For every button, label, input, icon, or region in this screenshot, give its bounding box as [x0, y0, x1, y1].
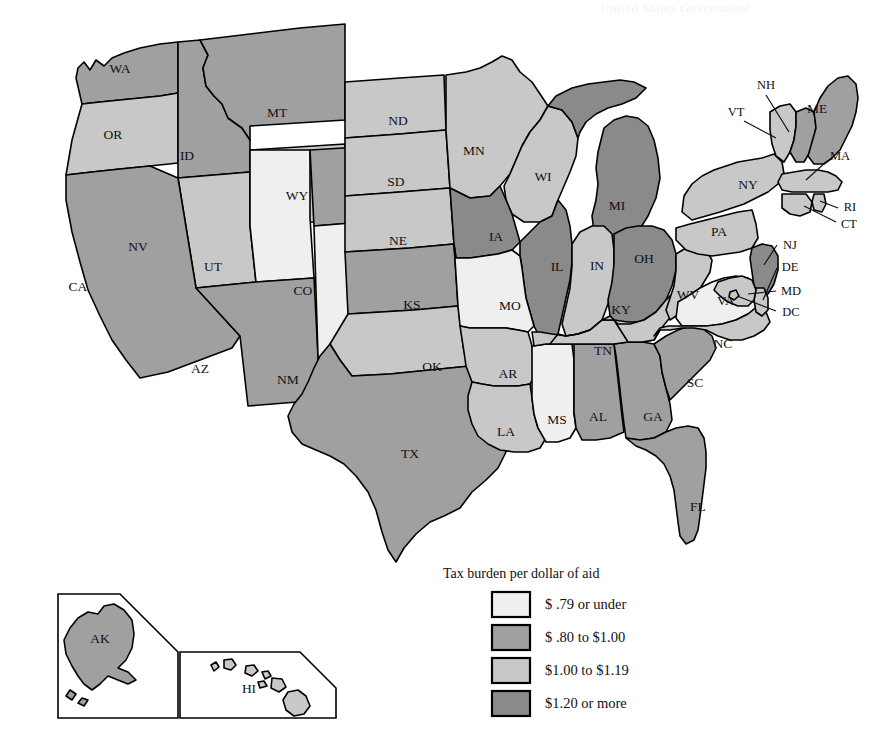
map-figure: United States Government	[0, 0, 883, 729]
legend-title: Tax burden per dollar of aid	[443, 566, 599, 581]
state-label-WA: WA	[110, 61, 131, 76]
state-label-OH: OH	[634, 251, 654, 266]
state-HI[interactable]	[211, 659, 310, 716]
state-label-HI: HI	[242, 681, 257, 696]
state-CT[interactable]	[782, 194, 812, 216]
state-NY[interactable]	[682, 154, 784, 220]
state-label-MA: MA	[830, 149, 850, 163]
state-label-CT: CT	[841, 217, 857, 231]
state-MA[interactable]	[778, 170, 842, 192]
state-label-FL: FL	[690, 499, 706, 514]
state-label-MD: MD	[781, 284, 801, 298]
state-label-NJ: NJ	[783, 238, 797, 252]
state-label-ME: ME	[807, 101, 827, 116]
state-label-SC: SC	[687, 375, 704, 390]
state-label-VA: VA	[717, 293, 735, 308]
legend-label-3: $1.00 to $1.19	[545, 662, 629, 678]
state-label-VT: VT	[728, 105, 745, 119]
state-label-MO: MO	[499, 298, 521, 313]
state-label-NV: NV	[128, 239, 148, 254]
us-choropleth-map: WA OR ID MT WY NV CA UT AZ CO NM ND SD N…	[0, 0, 883, 729]
legend-swatch-3	[492, 658, 530, 683]
state-KS[interactable]	[345, 244, 458, 314]
legend-swatch-4	[492, 691, 530, 716]
state-label-TN: TN	[594, 343, 612, 358]
state-label-MN: MN	[463, 143, 485, 158]
state-label-OK: OK	[422, 359, 442, 374]
state-label-OR: OR	[104, 127, 123, 142]
state-label-NH: NH	[757, 78, 775, 92]
state-label-UT: UT	[204, 259, 223, 274]
state-OK[interactable]	[330, 306, 470, 376]
state-AK[interactable]	[64, 604, 136, 706]
legend-label-4: $1.20 or more	[545, 695, 627, 711]
state-label-WI: WI	[534, 169, 552, 184]
state-label-SD: SD	[387, 174, 405, 189]
state-label-DC: DC	[782, 305, 799, 319]
state-label-GA: GA	[643, 409, 663, 424]
state-label-WV: WV	[677, 287, 700, 302]
state-label-CA: CA	[69, 279, 88, 294]
state-label-AL: AL	[589, 409, 607, 424]
state-label-LA: LA	[497, 424, 515, 439]
state-label-CO: CO	[294, 283, 313, 298]
legend-swatch-2	[492, 625, 530, 650]
state-label-MT: MT	[267, 105, 288, 120]
state-label-PA: PA	[711, 224, 727, 239]
state-label-AK: AK	[90, 631, 110, 646]
state-label-MI: MI	[609, 198, 626, 213]
state-label-NY: NY	[738, 177, 758, 192]
state-FL[interactable]	[626, 426, 706, 544]
state-MS[interactable]	[532, 344, 576, 442]
state-UT[interactable]	[250, 150, 314, 282]
state-label-IL: IL	[551, 259, 564, 274]
state-label-NE: NE	[389, 233, 407, 248]
state-label-NM: NM	[277, 372, 299, 387]
hawaii-inset-frame	[180, 652, 336, 718]
state-label-WY: WY	[286, 188, 309, 203]
state-label-KS: KS	[403, 297, 420, 312]
state-label-AR: AR	[499, 366, 518, 381]
state-label-IA: IA	[489, 229, 503, 244]
legend-label-1: $ .79 or under	[545, 596, 627, 612]
state-label-RI: RI	[844, 200, 857, 214]
state-label-IN: IN	[590, 258, 604, 273]
state-ND[interactable]	[345, 75, 446, 138]
state-label-DE: DE	[782, 260, 799, 274]
state-label-TX: TX	[401, 446, 419, 461]
state-label-KY: KY	[611, 302, 631, 317]
state-label-AZ: AZ	[191, 361, 209, 376]
state-label-ND: ND	[388, 113, 408, 128]
state-label-NC: NC	[714, 336, 733, 351]
state-label-MS: MS	[547, 412, 567, 427]
state-label-ID: ID	[180, 148, 194, 163]
legend-swatch-1	[492, 592, 530, 617]
legend-label-2: $ .80 to $1.00	[545, 629, 625, 645]
